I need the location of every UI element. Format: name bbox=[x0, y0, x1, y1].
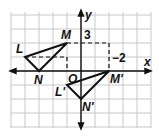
label-N-prime: N' bbox=[82, 100, 95, 114]
label-N: N bbox=[34, 73, 43, 87]
label-L: L bbox=[16, 42, 23, 56]
y-axis-down-arrow-icon bbox=[79, 123, 84, 129]
label-y-axis: y bbox=[84, 8, 93, 22]
y-axis-up-arrow-icon bbox=[79, 10, 84, 16]
label-M-prime: M' bbox=[110, 72, 124, 86]
label-x-axis: x bbox=[143, 55, 152, 69]
axes bbox=[10, 10, 151, 129]
annotation-horizontal-3: 3 bbox=[84, 28, 91, 42]
label-L-prime: L' bbox=[55, 85, 66, 99]
label-M: M bbox=[61, 28, 72, 42]
annotation-vertical-minus-2: −2 bbox=[112, 51, 126, 65]
coordinate-plane: L M N L' M' N' O y x 3 −2 bbox=[0, 0, 159, 137]
x-axis-right-arrow-icon bbox=[145, 69, 151, 74]
label-origin: O bbox=[68, 72, 78, 86]
